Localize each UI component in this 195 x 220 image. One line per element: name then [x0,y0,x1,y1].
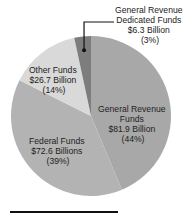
label-gr-dedicated: General Revenue Dedicated Funds $6.3 Bil… [115,5,185,45]
label-line: (14%) [43,85,66,95]
label-line: $6.3 Billion [128,25,170,35]
bottom-rule [10,211,118,213]
label-line: $81.9 Billion [108,124,155,134]
label-line: Other Funds [29,65,77,75]
label-line: General Revenue [115,5,183,15]
label-line: Federal Funds [29,136,84,146]
leader-dot [82,48,86,52]
label-line: Funds [120,114,144,124]
label-line: (44%) [122,134,145,144]
label-line: $26.7 Billion [29,75,76,85]
label-line: (39%) [47,156,70,166]
pie-slices [11,36,171,196]
pie-chart: General Revenue Dedicated Funds $6.3 Bil… [0,0,195,220]
label-line: General Revenue [98,104,166,114]
label-line: $72.6 Billions [31,146,82,156]
label-line: Dedicated Funds [116,15,181,25]
label-line: (3%) [141,35,159,45]
